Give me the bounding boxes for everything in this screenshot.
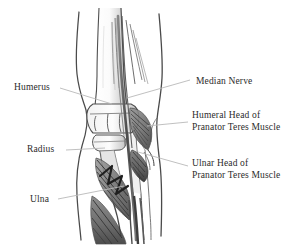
- label-ulna: Ulna: [30, 194, 49, 206]
- label-humeral-head-pronator-teres: Humeral Head of Pranator Teres Muscle: [192, 110, 280, 133]
- label-humerus-text: Humerus: [14, 82, 50, 92]
- label-radius-text: Radius: [27, 144, 54, 154]
- label-ulna-text: Ulna: [30, 194, 49, 204]
- skin-contour-medial: [76, 12, 87, 240]
- label-ulnar-head-line-1: Ulnar Head of: [192, 158, 280, 170]
- label-humeral-head-line-1: Humeral Head of: [192, 110, 280, 122]
- anatomy-figure: Humerus Radius Ulna Median Nerve Humeral…: [0, 0, 302, 246]
- leader-line-median-nerve: [127, 80, 190, 98]
- label-ulnar-head-line-2: Pranator Teres Muscle: [192, 170, 280, 182]
- label-median-nerve-text: Median Nerve: [196, 76, 252, 86]
- label-radius: Radius: [27, 144, 54, 156]
- label-humerus: Humerus: [14, 82, 50, 94]
- label-humeral-head-line-2: Pranator Teres Muscle: [192, 122, 280, 134]
- label-ulnar-head-pronator-teres: Ulnar Head of Pranator Teres Muscle: [192, 158, 280, 181]
- label-median-nerve: Median Nerve: [196, 76, 252, 88]
